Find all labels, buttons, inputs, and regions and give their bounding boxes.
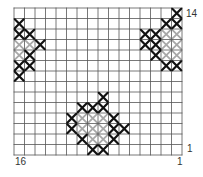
light-cross-stitch-icon bbox=[15, 51, 24, 60]
dark-cross-stitch-icon bbox=[151, 30, 160, 39]
light-cross-stitch-icon bbox=[15, 40, 24, 49]
row-label-bottom: 1 bbox=[187, 144, 193, 154]
dark-cross-stitch-icon bbox=[151, 51, 160, 60]
dark-cross-stitch-icon bbox=[172, 61, 181, 70]
dark-cross-stitch-icon bbox=[15, 19, 24, 28]
dark-cross-stitch-icon bbox=[15, 72, 24, 81]
dark-cross-stitch-icon bbox=[141, 40, 150, 49]
dark-cross-stitch-icon bbox=[141, 30, 150, 39]
light-cross-stitch-icon bbox=[78, 124, 87, 133]
dark-cross-stitch-icon bbox=[109, 135, 118, 144]
dark-cross-stitch-icon bbox=[109, 114, 118, 123]
col-label-right: 1 bbox=[177, 157, 183, 167]
dark-cross-stitch-icon bbox=[67, 114, 76, 123]
light-cross-stitch-icon bbox=[78, 114, 87, 123]
dark-cross-stitch-icon bbox=[99, 93, 108, 102]
dark-cross-stitch-icon bbox=[78, 135, 87, 144]
light-cross-stitch-icon bbox=[99, 124, 108, 133]
light-cross-stitch-icon bbox=[88, 114, 97, 123]
light-cross-stitch-icon bbox=[88, 124, 97, 133]
dark-cross-stitch-icon bbox=[99, 145, 108, 154]
light-cross-stitch-icon bbox=[172, 30, 181, 39]
light-cross-stitch-icon bbox=[25, 40, 34, 49]
light-cross-stitch-icon bbox=[88, 135, 97, 144]
dark-cross-stitch-icon bbox=[15, 61, 24, 70]
dark-cross-stitch-icon bbox=[88, 145, 97, 154]
dark-cross-stitch-icon bbox=[151, 40, 160, 49]
light-cross-stitch-icon bbox=[99, 114, 108, 123]
dark-cross-stitch-icon bbox=[67, 124, 76, 133]
row-label-top: 14 bbox=[186, 9, 197, 19]
dark-cross-stitch-icon bbox=[162, 19, 171, 28]
dark-cross-stitch-icon bbox=[25, 51, 34, 60]
light-cross-stitch-icon bbox=[162, 30, 171, 39]
light-cross-stitch-icon bbox=[172, 40, 181, 49]
light-cross-stitch-icon bbox=[162, 51, 171, 60]
dark-cross-stitch-icon bbox=[88, 103, 97, 112]
dark-cross-stitch-icon bbox=[162, 61, 171, 70]
col-label-left: 16 bbox=[15, 157, 26, 167]
dark-cross-stitch-icon bbox=[172, 19, 181, 28]
dark-cross-stitch-icon bbox=[15, 30, 24, 39]
grid-lines bbox=[14, 8, 182, 155]
dark-cross-stitch-icon bbox=[99, 103, 108, 112]
cross-stitch-chart bbox=[0, 0, 203, 177]
dark-cross-stitch-icon bbox=[172, 9, 181, 18]
dark-cross-stitch-icon bbox=[25, 30, 34, 39]
dark-cross-stitch-icon bbox=[36, 40, 45, 49]
dark-cross-stitch-icon bbox=[120, 124, 129, 133]
dark-cross-stitch-icon bbox=[78, 103, 87, 112]
dark-cross-stitch-icon bbox=[25, 61, 34, 70]
dark-cross-stitch-icon bbox=[109, 124, 118, 133]
light-cross-stitch-icon bbox=[162, 40, 171, 49]
light-cross-stitch-icon bbox=[99, 135, 108, 144]
light-cross-stitch-icon bbox=[172, 51, 181, 60]
